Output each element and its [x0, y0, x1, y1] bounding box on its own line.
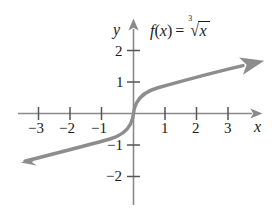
y-tick-label-neg1: −1 [107, 138, 123, 153]
cube-root-radical: 3 √x [188, 22, 208, 39]
plot-canvas [0, 0, 277, 218]
x-tick-label-neg2: −2 [59, 121, 75, 136]
x-tick-label-pos1: 1 [161, 121, 169, 136]
y-tick-label-pos1: 1 [116, 75, 124, 90]
y-tick-label-pos2: 2 [115, 44, 123, 59]
equals-sign: = [175, 23, 184, 39]
function-argument: x [160, 23, 167, 39]
x-tick-label-pos3: 3 [224, 121, 232, 136]
x-tick-label-neg1: −1 [91, 121, 107, 136]
y-tick-label-neg2: −2 [106, 169, 122, 184]
radicand: x [198, 23, 209, 39]
x-tick-label-pos2: 2 [192, 121, 200, 136]
x-axis-label: x [254, 119, 261, 135]
y-axis-label: y [113, 22, 120, 38]
function-label: f ( x ) = 3 √x [150, 22, 209, 39]
cube-root-function-figure: y x −3 −2 −1 1 2 3 2 1 −1 −2 f ( x ) = 3… [0, 0, 277, 218]
function-paren-close: ) [167, 23, 172, 39]
x-tick-label-neg3: −3 [28, 121, 44, 136]
